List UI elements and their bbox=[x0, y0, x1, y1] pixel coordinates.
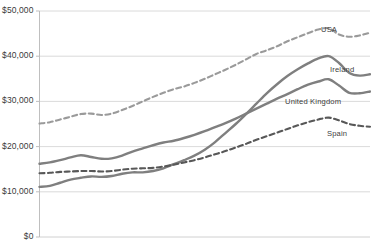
series-lines bbox=[40, 28, 371, 187]
y-axis-label: $0 bbox=[0, 231, 34, 241]
series-line-usa bbox=[40, 28, 371, 124]
series-label-united-kingdom: United Kingdom bbox=[285, 97, 341, 106]
series-label-usa: USA bbox=[321, 25, 337, 34]
y-axis-label: $40,000 bbox=[0, 50, 34, 60]
series-line-ireland bbox=[40, 56, 371, 187]
y-axis-label: $30,000 bbox=[0, 95, 34, 105]
chart-plot-area bbox=[0, 0, 371, 241]
series-line-spain bbox=[40, 118, 371, 174]
y-axis-label: $50,000 bbox=[0, 5, 34, 15]
y-axis-label: $20,000 bbox=[0, 141, 34, 151]
line-chart: $0$10,000$20,000$30,000$40,000$50,000 US… bbox=[0, 0, 371, 241]
series-label-ireland: Ireland bbox=[330, 65, 354, 74]
y-axis-label: $10,000 bbox=[0, 186, 34, 196]
gridlines bbox=[40, 11, 371, 237]
series-label-spain: Spain bbox=[327, 129, 347, 138]
